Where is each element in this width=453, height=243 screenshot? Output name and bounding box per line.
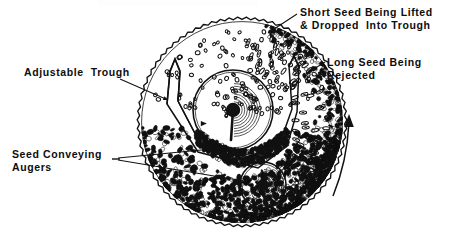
adjustable-trough-label: Adjustable Trough xyxy=(24,66,130,79)
short-seed-label-line2: & Dropped Into Trough xyxy=(300,19,430,31)
scan-artifact xyxy=(98,0,258,5)
long-seed-label-line2: Rejected xyxy=(327,69,376,81)
short-seed-label: Short Seed Being Lifted& Dropped Into Tr… xyxy=(300,6,433,31)
seed-conveying-augers-label: Seed ConveyingAugers xyxy=(12,148,102,173)
long-seed-label-line1: Long Seed Being xyxy=(327,56,422,68)
augers-label-line1: Seed Conveying xyxy=(12,148,102,160)
adjustable-trough-label-line1: Adjustable Trough xyxy=(24,66,130,78)
diagram-canvas: Short Seed Being Lifted& Dropped Into Tr… xyxy=(0,0,453,243)
augers-label-line2: Augers xyxy=(12,161,52,173)
seed-separator-illustration xyxy=(0,0,453,243)
long-seed-label: Long Seed BeingRejected xyxy=(327,56,422,81)
short-seed-label-line1: Short Seed Being Lifted xyxy=(300,6,433,18)
